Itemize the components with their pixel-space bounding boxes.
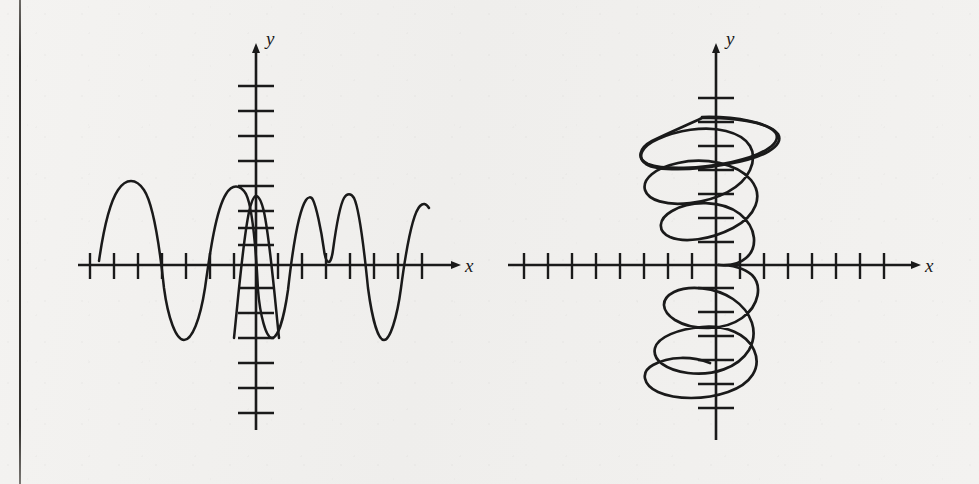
right-graph-panel: x y <box>500 0 979 484</box>
left-curve <box>99 181 429 340</box>
left-graph-svg: x y <box>40 0 500 484</box>
left-graph-panel: x y <box>40 0 500 484</box>
right-curve-main <box>641 117 779 398</box>
left-x-axis-label: x <box>464 255 474 276</box>
right-graph-svg: x y <box>500 0 979 484</box>
figure-page: x y <box>0 0 979 484</box>
right-x-axis-label: x <box>924 255 934 276</box>
left-y-axis-label: y <box>264 28 275 49</box>
margin-rule <box>19 0 21 484</box>
right-y-axis-label: y <box>724 28 735 49</box>
